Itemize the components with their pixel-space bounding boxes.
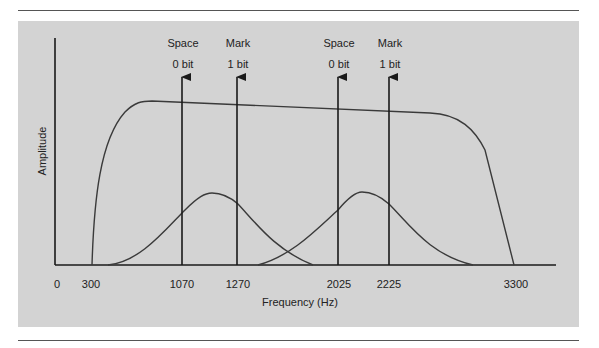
- x-tick-label: 1070: [170, 278, 194, 290]
- x-tick-label: 0: [54, 278, 60, 290]
- x-tick-label: 3300: [504, 278, 528, 290]
- arrow-label-bottom: 1 bit: [380, 58, 401, 70]
- x-tick-label: 300: [82, 278, 100, 290]
- arrow-label-bottom: 0 bit: [173, 58, 194, 70]
- y-axis-title: Amplitude: [36, 127, 48, 176]
- arrow-label-top: Space: [167, 37, 198, 49]
- arrow-label-top: Mark: [378, 37, 403, 49]
- x-tick-label: 2025: [327, 278, 351, 290]
- arrow-label-top: Mark: [226, 37, 251, 49]
- arrow-label-bottom: 0 bit: [329, 58, 350, 70]
- fsk-spectrum-diagram: Space 0 bit Mark 1 bit Space 0 bit Mark …: [0, 0, 599, 348]
- x-tick-label: 2225: [377, 278, 401, 290]
- x-tick-label: 1270: [226, 278, 250, 290]
- arrow-label-top: Space: [323, 37, 354, 49]
- x-axis-title: Frequency (Hz): [262, 296, 338, 308]
- arrow-label-bottom: 1 bit: [228, 58, 249, 70]
